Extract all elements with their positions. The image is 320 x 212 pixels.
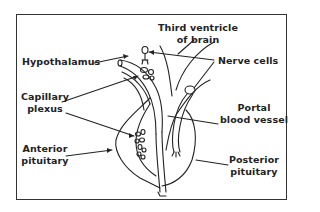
pituitary-stalk-right	[162, 132, 166, 192]
nerve-cell-lower	[185, 86, 195, 94]
label-hypothalamus-line1: Hypothalamus	[22, 56, 100, 68]
label-nerve-cells-line1: Nerve cells	[218, 55, 278, 67]
leader-nerve-cells-lower	[194, 62, 214, 88]
label-anterior-pituitary: Anterior pituitary	[20, 143, 70, 167]
label-nerve-cells: Nerve cells	[218, 55, 278, 67]
label-portal-blood-vessel-line2: blood vessel	[214, 114, 294, 126]
label-portal-blood-vessel: Portal blood vessel	[214, 102, 294, 126]
label-anterior-pituitary-line2: pituitary	[20, 155, 70, 167]
label-anterior-pituitary-line1: Anterior	[20, 143, 70, 155]
pituitary-stalk-left	[156, 134, 160, 192]
third-ventricle-outline	[176, 42, 214, 90]
label-capillary-plexus-line2: plexus	[20, 103, 70, 115]
label-third-ventricle: Third ventricle of brain	[148, 22, 248, 46]
leader-capillary-upper	[62, 76, 138, 102]
label-capillary-plexus: Capillary plexus	[20, 91, 70, 115]
leader-nerve-cells-upper	[149, 52, 214, 60]
nerve-cell-upper	[142, 47, 148, 54]
label-capillary-plexus-line1: Capillary	[20, 91, 70, 103]
label-hypothalamus: Hypothalamus	[22, 56, 100, 68]
label-third-ventricle-line2: of brain	[148, 34, 248, 46]
label-posterior-pituitary: Posterior pituitary	[222, 154, 286, 178]
label-posterior-pituitary-line1: Posterior	[222, 154, 286, 166]
label-third-ventricle-line1: Third ventricle	[148, 22, 248, 34]
label-posterior-pituitary-line2: pituitary	[222, 166, 286, 178]
leader-anterior	[66, 150, 112, 156]
label-portal-blood-vessel-line1: Portal	[214, 102, 294, 114]
